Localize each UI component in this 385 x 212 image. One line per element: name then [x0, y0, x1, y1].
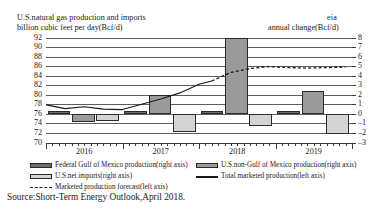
x-axis-month-tick — [244, 143, 245, 146]
x-axis-month-tick — [154, 143, 155, 146]
x-axis-month-tick — [78, 143, 79, 146]
x-axis-month-tick — [193, 143, 194, 146]
right-axis-tick-label: 0 — [358, 110, 382, 118]
page-title: U.S.natural gas production and imports — [17, 13, 146, 23]
left-axis-tick-label: 78 — [18, 100, 42, 108]
legend-label: Federal Gulf of Mexico production(right … — [55, 161, 188, 169]
x-axis-year-tick — [199, 143, 200, 149]
x-axis-month-tick — [142, 143, 143, 146]
legend-label: U.S.net imports(right axis) — [55, 172, 132, 180]
x-axis-month-tick — [116, 143, 117, 146]
legend-dashed-line-icon — [30, 187, 52, 188]
legend-label: Marketed production forecast(left axis) — [55, 183, 168, 191]
x-axis-month-tick — [301, 143, 302, 146]
left-axis-tick-label: 74 — [18, 119, 42, 127]
right-axis-tick-label: 2 — [358, 91, 382, 99]
right-axis-tick-label: 6 — [358, 53, 382, 61]
right-axis-tick-label: 8 — [358, 34, 382, 42]
x-axis-month-tick — [186, 143, 187, 146]
right-axis-tick-label: 3 — [358, 81, 382, 89]
x-axis-month-tick — [250, 143, 251, 146]
chart-legend: Federal Gulf of Mexico production(right … — [0, 161, 385, 195]
x-axis-month-tick — [129, 143, 130, 146]
eia-logo: eia — [327, 13, 337, 23]
left-axis-tick-label: 70 — [18, 139, 42, 147]
x-axis-month-tick — [174, 143, 175, 146]
x-axis-month-tick — [282, 143, 283, 146]
x-axis-month-tick — [218, 143, 219, 146]
x-axis-year-tick — [123, 143, 124, 149]
right-axis-tick-mark — [352, 133, 356, 134]
x-axis-label: 2019 — [290, 147, 338, 156]
x-axis-month-tick — [59, 143, 60, 146]
total-production-line — [46, 80, 212, 109]
x-axis-month-tick — [161, 143, 162, 146]
x-axis-label: 2016 — [60, 147, 108, 156]
forecast-line — [212, 66, 346, 80]
x-axis-month-tick — [205, 143, 206, 146]
chart-figure: U.S.natural gas production and imports b… — [0, 0, 385, 212]
x-axis-month-tick — [91, 143, 92, 146]
right-axis-tick-mark — [352, 85, 356, 86]
right-axis-tick-label: –2 — [358, 129, 382, 137]
x-axis-month-tick — [225, 143, 226, 146]
x-axis-month-tick — [65, 143, 66, 146]
x-axis-month-tick — [231, 143, 232, 146]
source-note: Source:Short-Term Energy Outlook,April 2… — [7, 192, 185, 202]
right-axis-tick-label: 5 — [358, 62, 382, 70]
x-axis-month-tick — [148, 143, 149, 146]
left-axis-tick-label: 84 — [18, 72, 42, 80]
right-axis-tick-mark — [352, 47, 356, 48]
x-axis-month-tick — [167, 143, 168, 146]
right-axis-tick-mark — [352, 76, 356, 77]
x-axis-month-tick — [110, 143, 111, 146]
legend-swatch-dark-gray-icon — [30, 163, 52, 168]
left-axis-tick-label: 82 — [18, 81, 42, 89]
x-axis-month-tick — [307, 143, 308, 146]
x-axis-month-tick — [52, 143, 53, 146]
x-axis-year-tick — [46, 143, 47, 149]
x-axis-month-tick — [84, 143, 85, 146]
x-axis-month-tick — [263, 143, 264, 146]
x-axis-month-tick — [72, 143, 73, 146]
x-axis-month-tick — [269, 143, 270, 146]
right-axis-tick-label: 1 — [358, 100, 382, 108]
left-axis-tick-label: 72 — [18, 129, 42, 137]
x-axis-month-tick — [314, 143, 315, 146]
x-axis-month-tick — [103, 143, 104, 146]
x-axis-month-tick — [135, 143, 136, 146]
plot-inner — [46, 38, 352, 143]
legend-label: U.S.non-Gulf of Mexico production(right … — [221, 161, 356, 169]
x-axis-year-tick — [276, 143, 277, 149]
x-axis-year-tick — [352, 143, 353, 149]
x-axis-month-tick — [320, 143, 321, 146]
x-axis-month-tick — [295, 143, 296, 146]
left-axis-tick-label: 88 — [18, 53, 42, 61]
legend-swatch-medium-gray-icon — [196, 163, 218, 168]
right-axis-tick-mark — [352, 66, 356, 67]
right-axis-tick-mark — [352, 104, 356, 105]
left-axis-tick-label: 80 — [18, 91, 42, 99]
right-axis-tick-mark — [352, 95, 356, 96]
right-axis-unit-label: annual change(Bcf/d) — [268, 23, 339, 33]
legend-solid-line-icon — [196, 176, 218, 177]
x-axis-month-tick — [180, 143, 181, 146]
right-axis-tick-label: 4 — [358, 72, 382, 80]
legend-swatch-light-gray-icon — [30, 174, 52, 179]
right-axis-tick-mark — [352, 38, 356, 39]
x-axis-month-tick — [339, 143, 340, 146]
x-axis-month-tick — [97, 143, 98, 146]
left-axis-tick-label: 92 — [18, 34, 42, 42]
x-axis-month-tick — [237, 143, 238, 146]
left-axis-tick-label: 76 — [18, 110, 42, 118]
line-series-group — [46, 38, 352, 143]
x-axis-label: 2017 — [137, 147, 185, 156]
left-axis-tick-label: 86 — [18, 62, 42, 70]
x-axis-month-tick — [256, 143, 257, 146]
left-axis-unit-label: billion cubic feet per day(Bcf/d) — [17, 23, 123, 33]
x-axis-month-tick — [346, 143, 347, 146]
right-axis-tick-mark — [352, 123, 356, 124]
x-axis-month-tick — [212, 143, 213, 146]
plot-area — [46, 38, 352, 143]
right-axis-tick-label: –1 — [358, 119, 382, 127]
